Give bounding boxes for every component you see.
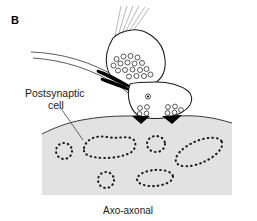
figure-caption: Axo-axonal [103, 205, 153, 216]
figure-panel-b: B Postsynaptic cell Axo-axonal [0, 0, 257, 221]
postsynaptic-label-line2: cell [48, 99, 64, 111]
postsynaptic-label-line1: Postsynaptic [25, 87, 85, 99]
panel-letter-b: B [11, 14, 19, 26]
postsynaptic-cell-body [42, 112, 232, 195]
axo-axonal-synapse-diagram: B Postsynaptic cell Axo-axonal [0, 0, 257, 221]
postsynaptic-cell-fill [42, 112, 232, 195]
